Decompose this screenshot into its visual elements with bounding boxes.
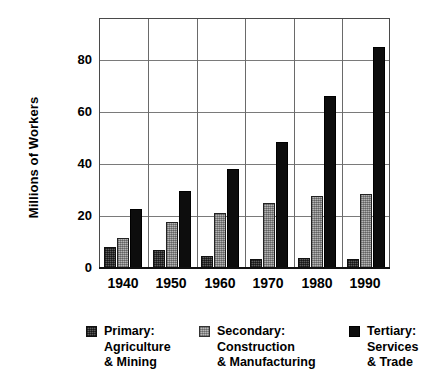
- x-axis-tick-labels: 1940 1950 1960 1970 1980 1990: [99, 275, 390, 297]
- bar-chart: Millions of Workers 0 20 40 60 80: [0, 0, 436, 392]
- x-tick-label-1940: 1940: [99, 275, 147, 291]
- bar-1960-secondary: [214, 213, 226, 268]
- y-axis-tick-labels: 0 20 40 60 80: [54, 18, 92, 268]
- bar-1950-tertiary: [179, 191, 191, 268]
- bars-layer: [99, 18, 390, 268]
- bar-1940-secondary: [117, 238, 129, 268]
- y-axis-title: Millions of Workers: [26, 63, 41, 253]
- bar-group-1950: [147, 18, 196, 268]
- x-tick-label-1980: 1980: [293, 275, 341, 291]
- bar-1970-secondary: [263, 203, 275, 268]
- x-tick-label-1960: 1960: [196, 275, 244, 291]
- bar-1980-tertiary: [324, 96, 336, 268]
- legend-label-secondary: Secondary: Construction & Manufacturing: [217, 324, 316, 371]
- bar-group-1940: [99, 18, 147, 268]
- bar-1980-secondary: [311, 196, 323, 268]
- legend-swatch-secondary-icon: [199, 326, 210, 337]
- x-axis-baseline: [99, 267, 390, 269]
- x-tick-label-1970: 1970: [244, 275, 292, 291]
- bar-1990-tertiary: [373, 47, 385, 268]
- bar-1960-tertiary: [227, 169, 239, 268]
- bar-group-1970: [244, 18, 293, 268]
- legend-swatch-tertiary-icon: [349, 326, 360, 337]
- y-tick-label: 40: [58, 156, 92, 171]
- legend-entry-primary: Primary: Agriculture & Mining: [86, 324, 196, 371]
- y-tick-label: 60: [58, 104, 92, 119]
- bar-1940-primary: [104, 247, 116, 268]
- bar-1940-tertiary: [130, 209, 142, 268]
- y-tick-label: 0: [58, 260, 92, 275]
- legend-label-tertiary: Tertiary: Services & Trade: [367, 324, 418, 371]
- bar-1990-secondary: [360, 194, 372, 268]
- legend-label-primary: Primary: Agriculture & Mining: [104, 324, 171, 371]
- x-tick-label-1950: 1950: [147, 275, 195, 291]
- legend-entry-tertiary: Tertiary: Services & Trade: [349, 324, 435, 371]
- bar-1950-primary: [153, 250, 165, 268]
- bar-1970-tertiary: [276, 142, 288, 268]
- bar-1950-secondary: [166, 222, 178, 268]
- legend-entry-secondary: Secondary: Construction & Manufacturing: [199, 324, 347, 371]
- chart-legend: Primary: Agriculture & Mining Secondary:…: [86, 324, 432, 386]
- legend-swatch-primary-icon: [86, 326, 97, 337]
- bar-group-1990: [341, 18, 390, 268]
- x-tick-label-1990: 1990: [341, 275, 389, 291]
- bar-group-1980: [293, 18, 341, 268]
- bar-group-1960: [196, 18, 244, 268]
- y-tick-label: 80: [58, 52, 92, 67]
- y-tick-label: 20: [58, 208, 92, 223]
